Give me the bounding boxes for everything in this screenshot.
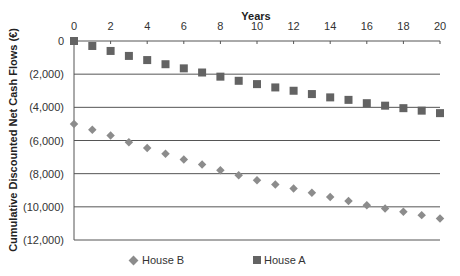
house-b-point bbox=[363, 201, 371, 209]
house-b-point bbox=[70, 120, 78, 128]
house-b-point bbox=[234, 171, 242, 179]
house-b-point bbox=[125, 138, 133, 146]
x-tick-label: 2 bbox=[108, 20, 114, 32]
x-tick-label: 18 bbox=[397, 20, 409, 32]
legend-house-a: House A bbox=[253, 254, 306, 266]
house-a-point bbox=[290, 87, 298, 95]
house-b-point bbox=[88, 125, 96, 133]
house-a-point bbox=[363, 99, 371, 107]
x-tick-label: 4 bbox=[144, 20, 150, 32]
house-a-point bbox=[198, 69, 206, 77]
y-axis-title: Cumulative Discounted Net Cash Flows (€) bbox=[7, 28, 19, 252]
square-marker-icon bbox=[253, 256, 261, 264]
house-a-point bbox=[180, 64, 188, 72]
y-tick-label: 0 bbox=[58, 35, 64, 47]
x-tick-label: 20 bbox=[434, 20, 446, 32]
y-tick-label: (10,000) bbox=[23, 201, 64, 213]
house-a-point bbox=[253, 80, 261, 88]
house-a-point bbox=[308, 90, 316, 98]
house-a-point bbox=[418, 107, 426, 115]
house-a-point bbox=[88, 42, 96, 50]
house-b-point bbox=[436, 214, 444, 222]
house-b-point bbox=[399, 208, 407, 216]
data-points bbox=[70, 37, 444, 223]
house-a-point bbox=[271, 83, 279, 91]
house-a-point bbox=[345, 96, 353, 104]
x-axis-title: Years bbox=[241, 10, 270, 22]
x-tick-label: 14 bbox=[324, 20, 336, 32]
y-tick-label: (4,000) bbox=[29, 101, 64, 113]
house-b-point bbox=[253, 176, 261, 184]
house-b-point bbox=[289, 184, 297, 192]
legend-label: House B bbox=[142, 254, 184, 266]
x-tick-label: 8 bbox=[217, 20, 223, 32]
house-b-point bbox=[344, 197, 352, 205]
gridlines bbox=[74, 74, 440, 240]
house-b-point bbox=[198, 160, 206, 168]
diamond-marker-icon bbox=[129, 255, 139, 265]
house-a-point bbox=[326, 93, 334, 101]
house-b-point bbox=[143, 144, 151, 152]
house-b-point bbox=[417, 211, 425, 219]
house-a-point bbox=[216, 73, 224, 81]
house-a-point bbox=[436, 109, 444, 117]
house-a-point bbox=[381, 102, 389, 110]
house-a-point bbox=[235, 77, 243, 85]
y-tick-label: (8,000) bbox=[29, 168, 64, 180]
house-a-point bbox=[125, 52, 133, 60]
x-tick-label: 0 bbox=[71, 20, 77, 32]
x-tick-label: 16 bbox=[361, 20, 373, 32]
house-b-point bbox=[106, 131, 114, 139]
legend-label: House A bbox=[264, 254, 306, 266]
y-tick-label: (2,000) bbox=[29, 68, 64, 80]
house-b-point bbox=[180, 155, 188, 163]
house-a-point bbox=[162, 60, 170, 68]
house-a-point bbox=[143, 56, 151, 64]
house-b-point bbox=[161, 150, 169, 158]
house-b-point bbox=[381, 204, 389, 212]
x-tick-label: 6 bbox=[181, 20, 187, 32]
y-tick-label: (6,000) bbox=[29, 135, 64, 147]
house-b-point bbox=[308, 188, 316, 196]
house-b-point bbox=[271, 180, 279, 188]
x-tick-label: 12 bbox=[287, 20, 299, 32]
house-b-point bbox=[326, 193, 334, 201]
house-a-point bbox=[70, 37, 78, 45]
y-tick-label: (12,000) bbox=[23, 234, 64, 246]
house-a-point bbox=[107, 47, 115, 55]
axes: 0(2,000)(4,000)(6,000)(8,000)(10,000)(12… bbox=[23, 20, 446, 246]
scatter-chart: 0(2,000)(4,000)(6,000)(8,000)(10,000)(12… bbox=[0, 0, 460, 276]
house-a-point bbox=[399, 104, 407, 112]
legend-house-b: House B bbox=[130, 254, 184, 266]
